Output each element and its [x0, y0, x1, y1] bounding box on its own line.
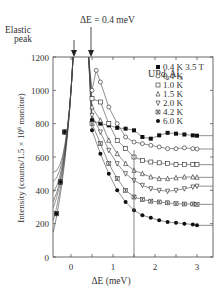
y-tick-label: 1000: [31, 86, 50, 96]
elastic-arrow-icon: [71, 40, 77, 57]
x-tick-label: 1: [111, 262, 116, 272]
y-tick-label: 200: [36, 219, 50, 229]
x-tick-label: 0: [69, 262, 74, 272]
y-axis-label: Intensity (counts/1.5 × 106 monitor): [16, 93, 26, 222]
y-tick-label: 0: [45, 253, 50, 263]
legend: 0.4 K 3.5 T0.4 K1.0 K1.5 K2.0 K4.2 K6.0 …: [156, 62, 205, 126]
y-tick-label: 400: [36, 186, 50, 196]
y-tick-label: 600: [36, 153, 50, 163]
x-axis-label: ΔE (meV): [91, 276, 130, 287]
x-tick-label: 2: [153, 262, 158, 272]
y-tick-labels: 020040060080010001200: [31, 53, 50, 263]
x-tick-labels: 0123: [69, 262, 200, 272]
legend-entry: 6.0 K: [163, 116, 184, 126]
delta-e-arrow-icon: [88, 27, 94, 57]
elastic-peak-label-2: peak: [14, 34, 32, 44]
y-tick-label: 800: [36, 119, 50, 129]
fit-curves: [53, 57, 213, 232]
delta-e-annotation: ΔE = 0.4 meV: [80, 15, 135, 25]
chart-canvas: 020040060080010001200 0123 UPd2Al3 0.4 K…: [0, 0, 222, 293]
y-tick-label: 1200: [31, 53, 50, 63]
x-tick-label: 3: [195, 262, 200, 272]
